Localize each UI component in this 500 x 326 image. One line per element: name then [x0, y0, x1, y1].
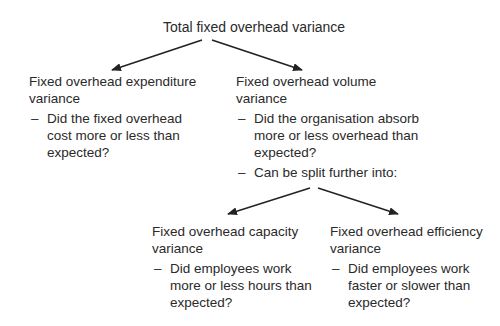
node-title-line2: variance	[29, 90, 229, 107]
point: – Can be split further into:	[236, 164, 454, 181]
point-text: Did the fixed overhead cost more or less…	[47, 111, 182, 160]
node-title-line2: variance	[330, 240, 500, 257]
node-title-line1: Fixed overhead capacity	[152, 223, 322, 240]
point-text: Did employees work more or less hours th…	[170, 261, 312, 310]
point-text: Did employees work faster or slower than…	[348, 261, 470, 310]
point-text: Can be split further into:	[254, 165, 397, 180]
point: – Did the organisation absorb more or le…	[236, 110, 424, 161]
node-points: – Did employees work faster or slower th…	[330, 260, 500, 311]
node-total-fixed-overhead-variance: Total fixed overhead variance	[163, 19, 345, 36]
dash-bullet: –	[154, 260, 162, 277]
point: – Did employees work more or less hours …	[152, 260, 320, 311]
dash-bullet: –	[238, 110, 246, 127]
arrow-volume-to-capacity	[228, 188, 310, 214]
node-capacity-variance: Fixed overhead capacity variance – Did e…	[152, 223, 322, 314]
node-efficiency-variance: Fixed overhead efficiency variance – Did…	[330, 223, 500, 314]
point: – Did employees work faster or slower th…	[330, 260, 488, 311]
node-volume-variance: Fixed overhead volume variance – Did the…	[236, 73, 436, 184]
node-title-line1: Fixed overhead efficiency	[330, 223, 500, 240]
dash-bullet: –	[31, 110, 39, 127]
node-expenditure-variance: Fixed overhead expenditure variance – Di…	[29, 73, 229, 164]
point: – Did the fixed overhead cost more or le…	[29, 110, 197, 161]
point-text: Did the organisation absorb more or less…	[254, 111, 419, 160]
node-title: Total fixed overhead variance	[163, 19, 345, 36]
node-title-line2: variance	[152, 240, 322, 257]
node-title-line2: variance	[236, 90, 436, 107]
node-points: – Did the organisation absorb more or le…	[236, 110, 436, 181]
dash-bullet: –	[238, 164, 246, 181]
arrow-volume-to-efficiency	[318, 188, 398, 214]
node-points: – Did the fixed overhead cost more or le…	[29, 110, 229, 161]
arrow-root-to-volume	[212, 40, 302, 70]
node-points: – Did employees work more or less hours …	[152, 260, 322, 311]
node-title-line1: Fixed overhead expenditure	[29, 73, 229, 90]
arrow-root-to-expenditure	[112, 40, 202, 70]
dash-bullet: –	[332, 260, 340, 277]
node-title-line1: Fixed overhead volume	[236, 73, 436, 90]
